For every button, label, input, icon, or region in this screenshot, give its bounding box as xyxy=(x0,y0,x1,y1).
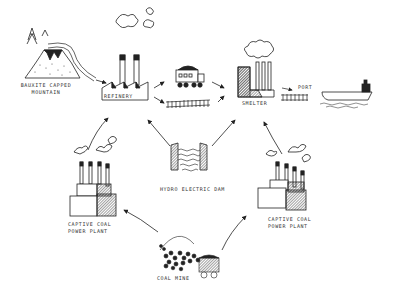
smelter-icon xyxy=(238,40,274,97)
right-power-plant-icon xyxy=(258,144,310,210)
port-label: Port xyxy=(298,84,312,91)
coal-mine-label: Coal mine xyxy=(157,275,190,282)
coal-mine-icon xyxy=(160,236,220,278)
hydro-label: Hydro electric dam xyxy=(160,186,225,193)
right-plant-label-line1: Captive coal xyxy=(268,216,311,223)
left-power-plant-icon xyxy=(70,136,116,216)
left-plant-label: Captive coal power plant xyxy=(68,221,111,235)
mountain-label-line2: mountain xyxy=(16,89,76,96)
bauxite-aluminium-flow-diagram: Bauxite capped mountain Refinery Smelter… xyxy=(0,0,394,303)
left-plant-label-line2: power plant xyxy=(68,228,111,235)
rail-track-icon xyxy=(166,100,210,108)
left-plant-label-line1: Captive coal xyxy=(68,221,111,228)
truck-icon xyxy=(176,66,204,87)
refinery-label: Refinery xyxy=(104,93,133,100)
right-plant-label-line2: power plant xyxy=(268,223,311,230)
refinery-icon xyxy=(102,8,154,100)
mountain-label: Bauxite capped mountain xyxy=(16,82,76,96)
ship-icon xyxy=(320,80,372,108)
flow-arrows xyxy=(88,82,282,250)
diagram-drawing xyxy=(0,0,394,303)
right-plant-label: Captive coal power plant xyxy=(268,216,311,230)
smelter-label: Smelter xyxy=(242,100,267,107)
bauxite-mountain-icon xyxy=(25,28,106,83)
hydro-dam-icon xyxy=(171,143,207,171)
mountain-label-line1: Bauxite capped xyxy=(16,82,76,89)
